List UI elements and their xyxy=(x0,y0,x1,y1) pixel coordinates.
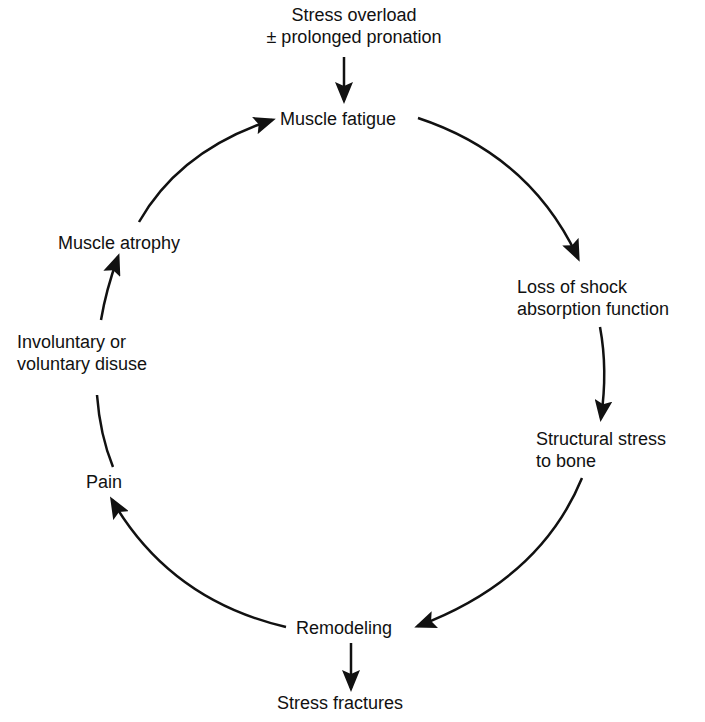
arrow-remodeling-to-pain xyxy=(112,500,286,627)
node-disuse: Involuntary or voluntary disuse xyxy=(17,331,147,375)
arrow-structural-to-remodeling xyxy=(418,478,582,626)
node-loss-of-shock: Loss of shock absorption function xyxy=(517,276,669,320)
node-structural-line-1: Structural stress xyxy=(536,428,666,450)
node-structural-line-2: to bone xyxy=(536,450,666,472)
node-muscle-atrophy: Muscle atrophy xyxy=(58,232,180,254)
node-pain: Pain xyxy=(86,471,122,493)
arrow-disuse-to-atrophy xyxy=(101,257,118,320)
node-loss-line-2: absorption function xyxy=(517,298,669,320)
node-muscle-fatigue: Muscle fatigue xyxy=(280,108,396,130)
input-line-1: Stress overload xyxy=(238,4,470,26)
output-stress-fractures: Stress fractures xyxy=(277,692,403,714)
node-disuse-line-2: voluntary disuse xyxy=(17,353,147,375)
input-line-2: ± prolonged pronation xyxy=(238,26,470,48)
arrow-fatigue-to-loss xyxy=(418,118,578,258)
arrow-atrophy-to-fatigue xyxy=(139,120,272,222)
node-structural-stress: Structural stress to bone xyxy=(536,428,666,472)
input-label: Stress overload ± prolonged pronation xyxy=(238,4,470,48)
arrow-loss-to-structural xyxy=(600,327,604,418)
node-remodeling: Remodeling xyxy=(296,617,392,639)
arrow-pain-to-disuse xyxy=(97,395,113,467)
node-loss-line-1: Loss of shock xyxy=(517,276,669,298)
node-disuse-line-1: Involuntary or xyxy=(17,331,147,353)
